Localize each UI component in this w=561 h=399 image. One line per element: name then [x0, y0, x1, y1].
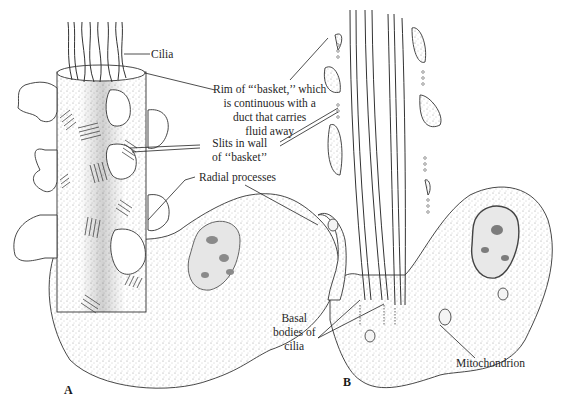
panel-b-drawing — [318, 10, 552, 388]
radial-process — [14, 215, 57, 261]
radial-process — [148, 195, 169, 231]
label-slits: Slits in wall of ‘‘basket’’ — [212, 136, 267, 164]
label-slits-line: of ‘‘basket’’ — [212, 150, 267, 164]
label-cilia: Cilia — [151, 47, 173, 61]
label-radial-processes: Radial processes — [199, 170, 276, 184]
radial-process — [148, 110, 168, 149]
label-basal-line: cilia — [273, 339, 315, 353]
label-basal-line: Basal — [273, 311, 315, 325]
panel-label-a: A — [64, 383, 73, 398]
label-slits-line: Slits in wall — [212, 136, 267, 150]
label-mitochondrion: Mitochondrion — [456, 356, 525, 370]
label-basal-bodies: Basal bodies of cilia — [273, 311, 315, 353]
radial-process — [33, 149, 57, 192]
label-rim-line: duct that carries — [213, 110, 326, 124]
radial-process — [18, 82, 57, 122]
label-rim-line: Rim of “‘basket,’’ which — [213, 82, 326, 96]
label-basal-line: bodies of — [273, 325, 315, 339]
cilia-b — [350, 10, 405, 305]
label-rim-line: is continuous with a — [213, 96, 326, 110]
panel-label-b: B — [343, 375, 351, 390]
label-rim: Rim of “‘basket,’’ which is continuous w… — [213, 82, 326, 138]
